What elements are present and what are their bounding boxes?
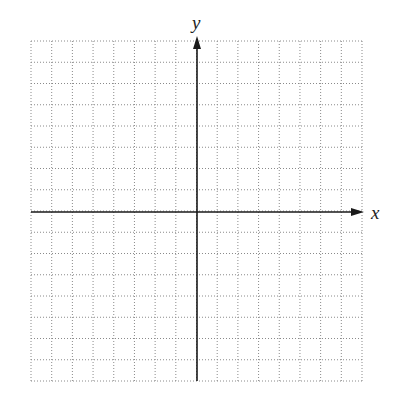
coordinate-plane: x y	[0, 0, 394, 402]
axes	[31, 36, 364, 381]
y-axis-label: y	[190, 12, 201, 33]
x-axis-label: x	[370, 202, 380, 223]
y-axis-arrow-icon	[193, 36, 201, 49]
